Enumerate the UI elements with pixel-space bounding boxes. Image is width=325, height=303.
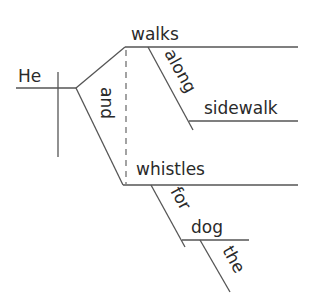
verb-whistles: whistles [136, 159, 205, 179]
object-sidewalk: sidewalk [204, 98, 278, 118]
object-dog: dog [191, 217, 223, 237]
verb-walks: walks [131, 24, 179, 44]
upper-fork-line [76, 47, 125, 88]
conjunction-word: and [97, 87, 117, 119]
modifier-the: the [219, 242, 250, 276]
preposition-along: along [161, 45, 201, 96]
sentence-diagram: He and walks along sidewalk whistles for… [0, 0, 325, 303]
preposition-for: for [167, 183, 196, 213]
subject-word: He [18, 66, 41, 86]
